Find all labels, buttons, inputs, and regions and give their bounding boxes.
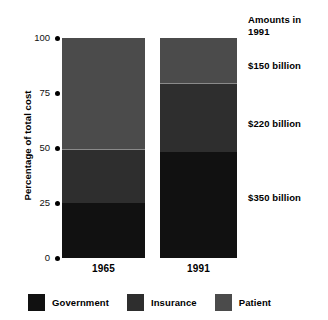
bar-segment-patient-1991 [160, 38, 237, 84]
annotation-column: Amounts in 1991 $150 billion $220 billio… [248, 0, 328, 270]
y-axis-tick-label-0: 0 [45, 253, 50, 263]
y-axis-tick-100: 100 [26, 32, 60, 44]
stacked-bar-chart: Percentage of total cost 100 75 50 25 0 [0, 0, 328, 320]
tick-dot-icon [55, 201, 60, 206]
legend-item-patient: Patient [215, 294, 271, 311]
legend-item-insurance: Insurance [127, 294, 197, 311]
legend-label-insurance: Insurance [151, 297, 197, 308]
y-axis-tick-75: 75 [26, 87, 60, 99]
bar-segment-patient-1965 [62, 38, 145, 150]
bar-segment-government-1991 [160, 152, 237, 258]
bar-segment-insurance-1965 [62, 150, 145, 203]
legend-swatch-icon-government [28, 294, 45, 311]
bar-1991 [160, 38, 237, 258]
y-axis-tick-label-50: 50 [39, 143, 50, 153]
tick-dot-icon [55, 91, 60, 96]
legend-label-patient: Patient [239, 297, 271, 308]
tick-dot-icon [55, 36, 60, 41]
annotation-heading-line2: 1991 [248, 26, 270, 37]
x-axis-label-1965: 1965 [62, 263, 145, 274]
y-axis-tick-50: 50 [26, 142, 60, 154]
tick-dot-icon [55, 146, 60, 151]
y-axis-tick-0: 0 [26, 252, 60, 264]
tick-dot-icon [55, 256, 60, 261]
annotation-patient-amount: $150 billion [248, 60, 328, 72]
annotation-heading: Amounts in 1991 [248, 14, 328, 37]
annotation-heading-line1: Amounts in [248, 14, 301, 25]
bar-1965 [62, 38, 145, 258]
y-axis-tick-label-75: 75 [39, 88, 50, 98]
legend-item-government: Government [28, 294, 109, 311]
plot-area [62, 38, 237, 258]
legend-label-government: Government [52, 297, 109, 308]
legend-swatch-icon-patient [215, 294, 232, 311]
x-axis-label-1991: 1991 [160, 263, 237, 274]
y-axis-tick-label-100: 100 [34, 33, 50, 43]
y-axis-tick-label-25: 25 [39, 198, 50, 208]
bar-segment-government-1965 [62, 203, 145, 258]
annotation-government-amount: $350 billion [248, 192, 328, 204]
chart-legend: Government Insurance Patient [28, 292, 300, 312]
bar-segment-insurance-1991 [160, 84, 237, 152]
legend-swatch-icon-insurance [127, 294, 144, 311]
y-axis-tick-25: 25 [26, 197, 60, 209]
annotation-insurance-amount: $220 billion [248, 118, 328, 130]
